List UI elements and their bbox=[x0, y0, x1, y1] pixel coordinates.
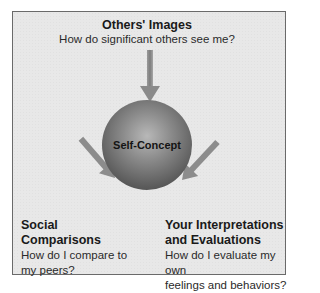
interpretations-question-line-2: feelings and behaviors? bbox=[165, 278, 290, 293]
interpretations-question-line-1: How do I evaluate my own bbox=[165, 248, 290, 278]
arrow-down-icon bbox=[140, 50, 160, 102]
social-comparisons-block: Social Comparisons How do I compare to m… bbox=[21, 218, 141, 278]
social-comparisons-question-line-2: my peers? bbox=[21, 263, 141, 278]
social-comparisons-question-line-1: How do I compare to bbox=[21, 248, 141, 263]
social-comparisons-title: Social Comparisons bbox=[21, 218, 141, 248]
interpretations-title-line-1: Your Interpretations bbox=[165, 218, 290, 233]
interpretations-title-line-2: and Evaluations bbox=[165, 233, 290, 248]
self-concept-sphere: Self-Concept bbox=[102, 100, 192, 190]
interpretations-block: Your Interpretations and Evaluations How… bbox=[165, 218, 290, 293]
self-concept-label: Self-Concept bbox=[113, 139, 181, 151]
